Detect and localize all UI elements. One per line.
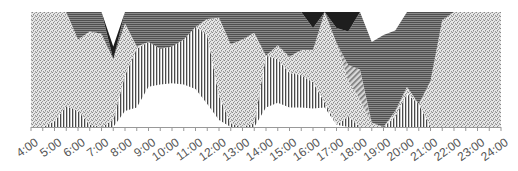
x-axis-tick-labels: 4:005:006:007:008:009:0010:0011:0012:001… bbox=[14, 135, 511, 164]
chart-canvas: 4:005:006:007:008:009:0010:0011:0012:001… bbox=[0, 0, 518, 171]
stacked-area-chart: 4:005:006:007:008:009:0010:0011:0012:001… bbox=[0, 0, 518, 171]
stacked-areas bbox=[31, 12, 501, 127]
x-tick-label: 24:00 bbox=[478, 135, 511, 164]
x-axis bbox=[31, 127, 501, 131]
